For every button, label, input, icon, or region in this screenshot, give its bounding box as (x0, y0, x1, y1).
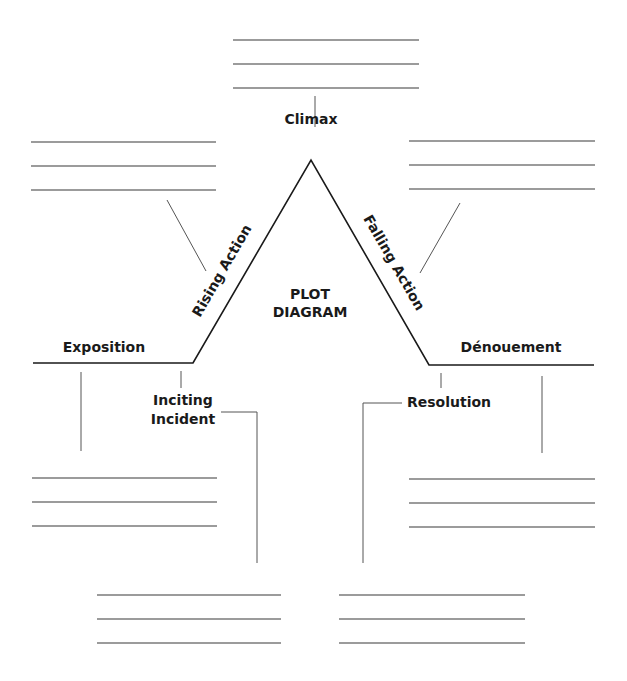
rising-action-label: Rising Action (189, 222, 255, 320)
resolution-answer-lines[interactable] (339, 595, 525, 643)
rising-action-answer-lines[interactable] (31, 142, 216, 190)
inciting-incident-answer-lines[interactable] (97, 595, 281, 643)
plot-arc-line (33, 160, 594, 365)
denouement-answer-lines[interactable] (409, 479, 595, 527)
resolution-connector (363, 403, 402, 563)
inciting-incident-connector (221, 412, 257, 563)
rising-action-connector (167, 200, 206, 271)
resolution-label: Resolution (407, 394, 491, 410)
falling-action-connector (420, 203, 460, 273)
plot-diagram-title-line1: PLOT (290, 286, 331, 302)
inciting-incident-label-line1: Inciting (153, 392, 213, 408)
exposition-label: Exposition (63, 339, 145, 355)
plot-diagram-title-line2: DIAGRAM (273, 304, 348, 320)
inciting-incident-label-line2: Incident (151, 411, 216, 427)
falling-action-answer-lines[interactable] (409, 141, 595, 189)
climax-label: Climax (285, 111, 338, 127)
exposition-answer-lines[interactable] (32, 478, 217, 526)
plot-diagram: Climax Rising Action Falling Action PLOT… (0, 0, 627, 681)
climax-answer-lines[interactable] (233, 40, 419, 88)
denouement-label: Dénouement (461, 339, 562, 355)
